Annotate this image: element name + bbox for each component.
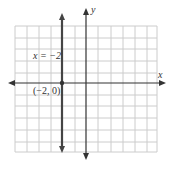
x-axis-label: x [158, 70, 162, 80]
point-neg2-0 [60, 81, 64, 85]
coordinate-plane [0, 0, 175, 169]
arrow-up-icon [83, 8, 89, 15]
x-axis [8, 80, 166, 86]
point-label: (−2, 0) [33, 86, 60, 96]
arrow-left-icon [8, 80, 15, 86]
y-axis [83, 8, 89, 160]
line-label-text: x = −2 [33, 50, 61, 61]
arrow-down-icon [83, 153, 89, 160]
arrow-right-icon [159, 80, 166, 86]
arrow-up-icon [59, 13, 65, 20]
y-axis-label: y [91, 5, 95, 15]
line-label: x = −2 [33, 51, 61, 61]
